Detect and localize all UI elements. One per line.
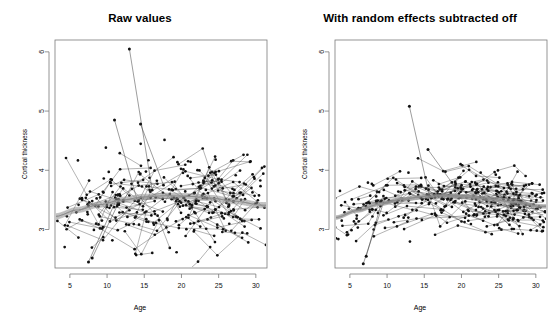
panel-random-effects-subtracted: With random effects subtracted off 51015…: [280, 0, 560, 316]
svg-text:30: 30: [532, 282, 540, 289]
svg-text:6: 6: [318, 50, 325, 54]
svg-text:20: 20: [458, 282, 466, 289]
y-axis-label-left: Cortical thickness: [21, 129, 28, 179]
x-axis-label-right: Age: [280, 304, 560, 311]
plot-area-left: 510152025303456: [0, 0, 280, 316]
svg-text:3: 3: [318, 227, 325, 231]
svg-text:3: 3: [38, 227, 45, 231]
svg-text:20: 20: [178, 282, 186, 289]
x-axis-label-left: Age: [0, 304, 280, 311]
svg-text:5: 5: [318, 109, 325, 113]
panel-raw-values: Raw values 510152025303456 Cortical thic…: [0, 0, 280, 316]
svg-text:25: 25: [495, 282, 503, 289]
plot-area-right: 510152025303456: [280, 0, 560, 316]
svg-text:6: 6: [38, 50, 45, 54]
svg-text:15: 15: [140, 282, 148, 289]
svg-text:4: 4: [38, 168, 45, 172]
svg-text:10: 10: [383, 282, 391, 289]
svg-text:4: 4: [318, 168, 325, 172]
svg-text:15: 15: [420, 282, 428, 289]
svg-text:30: 30: [252, 282, 260, 289]
svg-text:5: 5: [68, 282, 72, 289]
svg-text:5: 5: [38, 109, 45, 113]
figure-canvas: Raw values 510152025303456 Cortical thic…: [0, 0, 560, 316]
y-axis-label-right: Cortical thickness: [301, 129, 308, 179]
svg-text:10: 10: [103, 282, 111, 289]
svg-text:5: 5: [348, 282, 352, 289]
svg-text:25: 25: [215, 282, 223, 289]
